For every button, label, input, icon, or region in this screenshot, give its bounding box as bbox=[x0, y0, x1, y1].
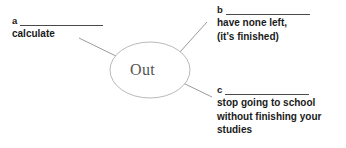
word-web-diagram: Out a calculate b have none left, (it's … bbox=[0, 0, 346, 148]
branch-b-key: b bbox=[217, 4, 223, 15]
branch-c-head: c bbox=[217, 83, 321, 95]
branch-a: a calculate bbox=[12, 14, 103, 41]
center-node-label: Out bbox=[130, 62, 155, 78]
branch-a-text: calculate bbox=[12, 27, 103, 41]
branch-c-key: c bbox=[217, 84, 222, 95]
connector-line-c bbox=[183, 83, 212, 97]
connector-line-b bbox=[180, 22, 207, 52]
branch-c: c stop going to school without finishing… bbox=[217, 83, 321, 137]
connector-line-a bbox=[79, 38, 120, 58]
branch-b-head: b bbox=[217, 3, 310, 15]
branch-a-answer-blank[interactable] bbox=[20, 16, 103, 26]
branch-a-head: a bbox=[12, 14, 103, 26]
branch-b-text: have none left, (it's finished) bbox=[217, 16, 310, 43]
branch-a-key: a bbox=[12, 15, 17, 26]
branch-b-answer-blank[interactable] bbox=[226, 5, 310, 15]
branch-b: b have none left, (it's finished) bbox=[217, 3, 310, 43]
branch-c-text: stop going to school without finishing y… bbox=[217, 96, 321, 137]
branch-c-answer-blank[interactable] bbox=[225, 85, 309, 95]
